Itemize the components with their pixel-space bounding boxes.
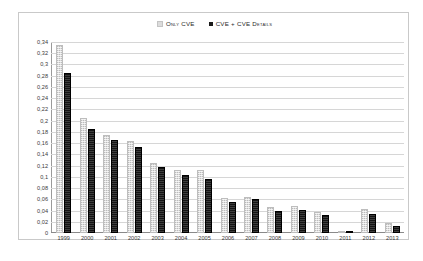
bar-cve-plus-details-2002 [135,147,142,233]
bar-group [169,42,192,233]
bars-layer [52,42,404,233]
bar-group [310,42,333,233]
bar-only-cve-2004 [174,170,181,233]
bar-cve-plus-details-2009 [299,210,306,233]
x-axis-tick-label: 2008 [263,235,286,241]
bar-only-cve-2008 [267,207,274,233]
bar-only-cve-1999 [56,45,63,233]
x-axis-tick-label: 2006 [216,235,239,241]
chart-legend: Only CVE CVE + CVE Details [19,20,410,27]
bar-group [146,42,169,233]
x-axis-tick-label: 2004 [169,235,192,241]
bar-only-cve-2012 [361,209,368,233]
bar-only-cve-2009 [291,206,298,233]
y-axis-tick-label: 0,08 [37,185,51,191]
bar-cve-plus-details-2000 [88,129,95,233]
y-axis-tick-label: 0,12 [37,163,51,169]
bar-cve-plus-details-2007 [252,199,259,233]
y-axis-tick-label: 0,16 [37,140,51,146]
x-axis-tick-label: 2002 [122,235,145,241]
bar-cve-plus-details-2011 [346,231,353,233]
x-axis-ticks: 1999200020012002200320042005200620072008… [52,235,404,241]
bar-group [99,42,122,233]
y-axis-tick-label: 0,06 [37,196,51,202]
bar-only-cve-2002 [127,141,134,233]
y-axis-tick-label: 0,2 [40,118,51,124]
bar-group [216,42,239,233]
dark-swatch-icon [209,22,213,26]
bar-group [334,42,357,233]
y-axis-tick-label: 0 [45,230,51,236]
x-axis-tick-label: 1999 [52,235,75,241]
y-axis-tick-label: 0,3 [40,61,51,67]
x-axis-tick-label: 2007 [240,235,263,241]
bar-group [52,42,75,233]
chart-frame: Only CVE CVE + CVE Details 00,020,040,06… [18,12,409,240]
bar-only-cve-2003 [150,163,157,233]
bar-cve-plus-details-2004 [182,175,189,233]
x-axis-tick-label: 2013 [381,235,404,241]
bar-only-cve-2011 [338,231,345,233]
bar-cve-plus-details-2013 [393,226,400,233]
legend-entry-cve-plus-details: CVE + CVE Details [209,20,272,27]
y-axis-tick-label: 0,28 [37,73,51,79]
bar-only-cve-2000 [80,118,87,233]
x-axis-tick-label: 2012 [357,235,380,241]
bar-cve-plus-details-2003 [158,167,165,233]
y-axis-tick-label: 0,32 [37,50,51,56]
bar-group [381,42,404,233]
legend-entry-only-cve: Only CVE [157,20,195,27]
bar-cve-plus-details-2006 [229,202,236,233]
x-axis-tick-label: 2000 [75,235,98,241]
bar-chart: Only CVE CVE + CVE Details 00,020,040,06… [0,0,423,261]
x-axis-tick-label: 2001 [99,235,122,241]
bar-cve-plus-details-2005 [205,179,212,233]
bar-group [240,42,263,233]
y-axis-tick-label: 0,24 [37,95,51,101]
x-axis-tick-label: 2009 [287,235,310,241]
bar-group [75,42,98,233]
x-axis-tick-label: 2011 [334,235,357,241]
bar-only-cve-2005 [197,170,204,233]
legend-label-only-cve: Only CVE [166,20,195,27]
bar-only-cve-2010 [314,212,321,233]
bar-only-cve-2013 [385,223,392,233]
x-axis-tick-label: 2010 [310,235,333,241]
bar-cve-plus-details-2012 [369,214,376,233]
plot-area: 00,020,040,060,080,10,120,140,160,180,20… [51,42,404,233]
bar-only-cve-2006 [221,198,228,233]
bar-group [122,42,145,233]
x-axis-tick-label: 2005 [193,235,216,241]
bar-cve-plus-details-2008 [275,211,282,233]
legend-label-cve-plus-details: CVE + CVE Details [216,20,272,27]
y-axis-tick-label: 0,04 [37,208,51,214]
bar-cve-plus-details-1999 [64,73,71,233]
bar-group [287,42,310,233]
y-axis-tick-label: 0,1 [40,174,51,180]
bar-only-cve-2007 [244,197,251,234]
bar-only-cve-2001 [103,135,110,233]
light-swatch-icon [157,21,163,27]
x-axis-tick-label: 2003 [146,235,169,241]
y-axis-tick-label: 0,26 [37,84,51,90]
bar-group [263,42,286,233]
y-axis-tick-label: 0,22 [37,106,51,112]
y-axis-tick-label: 0,18 [37,129,51,135]
y-axis-tick-label: 0,02 [37,219,51,225]
y-axis-tick-label: 0,34 [37,39,51,45]
bar-group [357,42,380,233]
bar-cve-plus-details-2001 [111,140,118,233]
bar-cve-plus-details-2010 [322,215,329,233]
bar-group [193,42,216,233]
y-axis-tick-label: 0,14 [37,151,51,157]
